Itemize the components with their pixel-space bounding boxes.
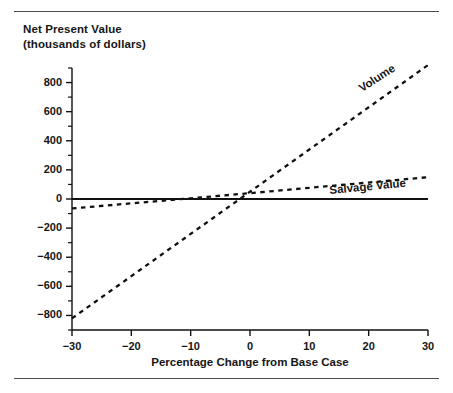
y-tick-label: −200 <box>20 221 62 233</box>
series-group <box>72 65 428 318</box>
axes-group <box>66 68 428 336</box>
y-tick-label: −600 <box>20 279 62 291</box>
y-tick-label: −400 <box>20 250 62 262</box>
y-tick-label: 600 <box>20 105 62 117</box>
x-tick-label: 20 <box>349 340 389 352</box>
plot-area <box>0 0 453 393</box>
x-tick-label: −30 <box>52 340 92 352</box>
y-tick-label: 0 <box>20 192 62 204</box>
x-axis-title: Percentage Change from Base Case <box>72 356 428 368</box>
y-tick-label: 400 <box>20 134 62 146</box>
series-line-volume <box>72 65 428 318</box>
x-tick-label: 10 <box>289 340 329 352</box>
x-tick-label: 30 <box>408 340 448 352</box>
y-tick-label: 800 <box>20 76 62 88</box>
y-tick-label: 200 <box>20 163 62 175</box>
y-tick-label: −800 <box>20 308 62 320</box>
x-tick-label: 0 <box>230 340 270 352</box>
figure-container: Net Present Value (thousands of dollars)… <box>0 0 453 393</box>
x-tick-label: −20 <box>111 340 151 352</box>
x-tick-label: −10 <box>171 340 211 352</box>
